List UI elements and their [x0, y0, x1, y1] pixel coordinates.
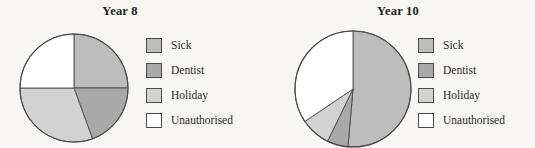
legend-label-holiday: Holiday — [443, 90, 480, 102]
legend-year10: Sick Dentist Holiday Unauthorised — [418, 33, 505, 133]
legend-year8: Sick Dentist Holiday Unauthorised — [146, 33, 233, 133]
chart-panel-year8: Year 8 Sick Dentist Holiday Unauth — [0, 0, 268, 148]
chart-title-year10: Year 10 — [267, 4, 529, 19]
pie-slice-unauthorised[interactable] — [20, 34, 74, 88]
legend-swatch-sick — [146, 38, 162, 53]
legend-label-holiday: Holiday — [171, 90, 208, 102]
legend-swatch-dentist — [418, 63, 434, 78]
pie-slice-sick[interactable] — [74, 34, 128, 88]
legend-label-dentist: Dentist — [171, 65, 204, 77]
legend-swatch-holiday — [418, 88, 434, 103]
legend-label-sick: Sick — [443, 40, 463, 52]
legend-label-unauthorised: Unauthorised — [443, 115, 505, 127]
pie-chart-year10 — [293, 30, 413, 148]
pie-svg-year10 — [293, 30, 413, 148]
chart-title-year8: Year 8 — [0, 4, 240, 19]
legend-item-unauthorised[interactable]: Unauthorised — [146, 108, 233, 133]
pie-slice-sick[interactable] — [348, 31, 411, 147]
legend-item-dentist[interactable]: Dentist — [146, 58, 233, 83]
legend-swatch-sick — [418, 38, 434, 53]
legend-item-sick[interactable]: Sick — [146, 33, 233, 58]
legend-swatch-unauthorised — [418, 113, 434, 128]
pie-chart-year8 — [19, 33, 129, 145]
legend-item-unauthorised[interactable]: Unauthorised — [418, 108, 505, 133]
legend-item-holiday[interactable]: Holiday — [418, 83, 505, 108]
legend-item-dentist[interactable]: Dentist — [418, 58, 505, 83]
legend-swatch-holiday — [146, 88, 162, 103]
legend-label-sick: Sick — [171, 40, 191, 52]
figure-canvas: Year 8 Sick Dentist Holiday Unauth — [0, 0, 535, 148]
legend-item-holiday[interactable]: Holiday — [146, 83, 233, 108]
pie-svg-year8 — [19, 33, 129, 145]
legend-swatch-unauthorised — [146, 113, 162, 128]
legend-item-sick[interactable]: Sick — [418, 33, 505, 58]
legend-label-dentist: Dentist — [443, 65, 476, 77]
legend-swatch-dentist — [146, 63, 162, 78]
legend-label-unauthorised: Unauthorised — [171, 115, 233, 127]
pie-slices-year10 — [295, 31, 411, 147]
chart-panel-year10: Year 10 Sick Dentist Holiday Unaut — [267, 0, 535, 148]
